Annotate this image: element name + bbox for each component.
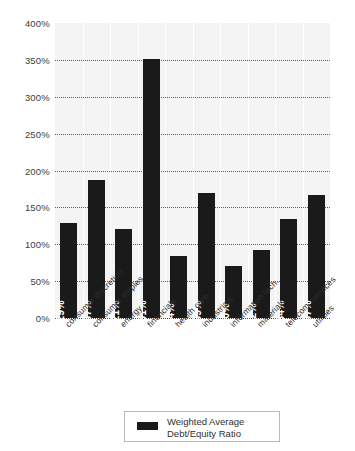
legend-swatch-weighted-average — [137, 422, 158, 430]
legend-label-line-2: Debt/Equity Ratio — [167, 428, 244, 440]
legend-label-weighted-average: Weighted Average Debt/Equity Ratio — [167, 416, 244, 439]
y-tick-label: 100% — [2, 239, 50, 250]
y-tick-label: 250% — [2, 128, 50, 139]
y-tick-label: 150% — [2, 202, 50, 213]
y-axis: 0%50%100%150%200%250%300%350%400% — [0, 23, 50, 318]
gridline-300% — [55, 97, 330, 98]
plot-area: 129%187%121%351%84%169%70%92%134%167% — [55, 23, 330, 318]
legend-label-line-1: Weighted Average — [167, 416, 244, 428]
gridline-350% — [55, 60, 330, 61]
y-tick-label: 300% — [2, 91, 50, 102]
chart-legend: Weighted Average Debt/Equity Ratio — [124, 411, 280, 442]
y-tick-label: 0% — [2, 313, 50, 324]
bar: 129% — [60, 223, 77, 318]
y-tick-label: 200% — [2, 165, 50, 176]
x-axis-labels: consumer discretionconsumer staplesenerg… — [55, 320, 330, 398]
gridline-200% — [55, 171, 330, 172]
bar: 351% — [143, 59, 160, 318]
y-tick-label: 50% — [2, 276, 50, 287]
gridline-250% — [55, 134, 330, 135]
y-tick-label: 400% — [2, 18, 50, 29]
bar-chart: 0%50%100%150%200%250%300%350%400% 129%18… — [0, 0, 355, 451]
plot-inner: 129%187%121%351%84%169%70%92%134%167% — [55, 23, 330, 318]
y-tick-label: 350% — [2, 54, 50, 65]
